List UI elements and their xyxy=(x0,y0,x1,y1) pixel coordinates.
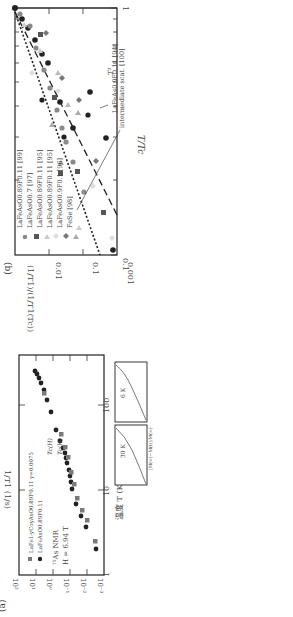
panel-a-label: (a) xyxy=(0,600,7,612)
panel-a: 10² 10¹ 10⁰ 10⁻¹ 10⁻² 10⁻³ 1 10 100 温度 T… xyxy=(0,355,153,612)
inset-30k: 30 K xyxy=(115,425,147,485)
panel-a-ytick: 10¹ xyxy=(28,578,36,590)
panel-b-ytick-0.01: 0.01 xyxy=(54,262,63,280)
legend-circle-icon xyxy=(38,557,42,561)
legend-square-icon xyxy=(34,234,39,239)
legend-label: LaFeAsO0.89F0.11 xyxy=(37,500,43,553)
svg-text:6 K: 6 K xyxy=(119,387,126,398)
inset-axis-label: [M(∞)−M(t)]/M(∞) xyxy=(148,427,153,470)
panel-b-xtick-1: 1 xyxy=(121,6,130,11)
panel-b-ylabel: (1/T1)/(1/T1(Tc)) xyxy=(26,265,35,332)
panel-a-xtick: 100 xyxy=(102,398,111,413)
panel-b-legend: LaFeAsO0.89F0.11 [99] LaFeAsO0.7 [97] La… xyxy=(16,150,79,240)
legend-label: LaFeAsO0.7 [97] xyxy=(26,173,34,228)
arrow-scat xyxy=(77,130,120,210)
nmr-label: ⁷⁵As NMR xyxy=(52,529,60,565)
panel-b-ytick-0.1: 0.1 xyxy=(91,262,100,275)
legend-triangle-icon xyxy=(44,234,50,239)
legend-label: LaFe1-yCoyAsO0.89F0.11 y=0.0075 xyxy=(28,451,35,553)
field-label: H = 6.94 T xyxy=(62,526,70,565)
arrow-cobalt xyxy=(100,105,108,108)
tc-label: Tc(H) xyxy=(56,438,63,455)
panel-b-xtick-0.1: 0.1 xyxy=(121,258,130,271)
scat-annotation: intermediate scat. [100] xyxy=(118,48,126,128)
panel-a-ylabel: 1/T1 (1/s) xyxy=(3,470,12,509)
panel-b-label: (b) xyxy=(3,262,13,275)
panel-a-xtick: 10 xyxy=(102,486,111,496)
legend-diamond-icon xyxy=(53,233,59,239)
legend-square-icon xyxy=(28,557,32,561)
panel-a-ytick: 10⁻³ xyxy=(96,578,104,594)
svg-text:30 K: 30 K xyxy=(119,443,126,458)
legend-circle-icon xyxy=(23,235,28,240)
figure: 1 0.1 0.01 0.001 0.1 1 T/Tc (b) (1/T1)/(… xyxy=(0,0,293,617)
legend-label: FeSe [98] xyxy=(66,196,74,228)
panel-a-ytick: 10² xyxy=(11,578,19,590)
inset-6k: 6 K xyxy=(115,362,147,422)
legend-label: LaFeAsO0.89F0.11 [99] xyxy=(16,150,24,228)
panel-b-xlabel: T/Tc xyxy=(136,135,146,154)
legend-label: LaFeAsO0.89F0.11 [95] xyxy=(46,150,54,228)
legend-label: LaFeAsO0.89F0.11 [95] xyxy=(36,150,44,228)
tc-label: Tc(H) xyxy=(46,438,53,455)
legend-triangle-gray-icon xyxy=(73,234,79,239)
panel-a-ytick: 10⁻² xyxy=(79,578,87,594)
panel-b: 1 0.1 0.01 0.001 0.1 1 T/Tc (b) (1/T1)/(… xyxy=(3,5,146,332)
legend-diamond-dark-icon xyxy=(63,233,69,239)
legend-label: LaFeAsO0.9F0.1 [96] xyxy=(56,158,64,228)
panel-a-ytick: 10⁰ xyxy=(45,578,53,590)
panel-a-xlabel: 温度 T (K) xyxy=(114,481,124,520)
panel-a-xtick: 1 xyxy=(102,572,111,577)
panel-a-ytick: 10⁻¹ xyxy=(62,578,70,594)
